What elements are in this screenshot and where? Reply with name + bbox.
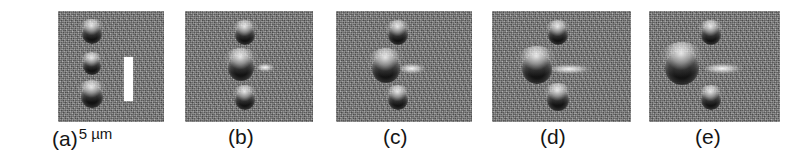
panel-label: (d)	[540, 125, 566, 148]
bottom-particle	[547, 89, 569, 111]
panel-caption-c: (c)	[383, 126, 408, 147]
top-particle	[388, 25, 408, 45]
panel-label: (c)	[383, 125, 408, 148]
micrograph-panel-d	[492, 11, 631, 122]
scale-bar-label: 5 µm	[79, 125, 113, 142]
particle-streak	[400, 63, 426, 74]
particle-streak	[550, 64, 592, 74]
scale-bar	[124, 57, 133, 101]
particle-streak	[705, 63, 743, 74]
bottom-particle	[701, 90, 721, 110]
micrograph-panel-c	[336, 11, 472, 122]
top-particle	[82, 24, 102, 44]
micrograph-figure: (a)5 µm(b)(c)(d)(e)	[0, 0, 808, 167]
panel-caption-a: (a)5 µm	[52, 126, 112, 149]
top-particle	[235, 25, 255, 45]
middle-particle	[83, 57, 101, 75]
bottom-particle	[388, 90, 408, 110]
panel-noise-background	[58, 11, 164, 122]
middle-particle	[665, 51, 699, 85]
panel-label: (b)	[228, 125, 254, 148]
panel-caption-e: (e)	[695, 126, 721, 147]
panel-caption-b: (b)	[228, 126, 254, 147]
middle-particle	[228, 55, 254, 81]
panel-label: (a)	[52, 127, 78, 150]
bottom-particle	[81, 86, 103, 108]
micrograph-panel-a	[58, 11, 164, 122]
bottom-particle	[235, 90, 255, 110]
top-particle	[701, 25, 721, 45]
micrograph-panel-b	[185, 11, 313, 122]
panel-caption-d: (d)	[540, 126, 566, 147]
particle-streak	[257, 63, 275, 72]
middle-particle	[372, 55, 400, 83]
middle-particle	[522, 54, 552, 84]
micrograph-panel-e	[649, 11, 780, 122]
top-particle	[548, 25, 568, 45]
panel-label: (e)	[695, 125, 721, 148]
